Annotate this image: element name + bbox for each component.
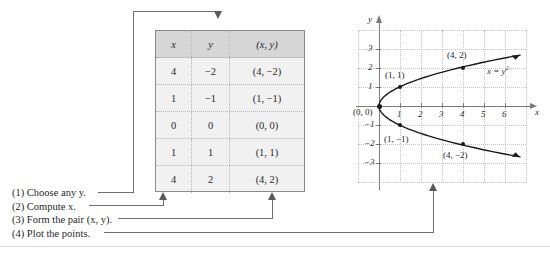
caption-step-1: (1) Choose any y. bbox=[12, 186, 172, 200]
connector-4-arrow-icon bbox=[429, 183, 437, 191]
table-row: 0 0 (0, 0) bbox=[156, 112, 304, 139]
caption-step-2: (2) Compute x. bbox=[12, 200, 172, 214]
parabola-curve bbox=[350, 8, 545, 188]
connector-1-seg-v bbox=[133, 11, 134, 193]
cell-y: −2 bbox=[192, 58, 230, 84]
caption-step-3: (3) Form the pair (x, y). bbox=[12, 213, 172, 227]
curve-equation-exponent: 2 bbox=[506, 64, 509, 71]
connector-3-seg-h bbox=[118, 218, 272, 219]
curve-equation-label: x = y2 bbox=[487, 64, 509, 76]
connector-2-seg-h bbox=[89, 205, 163, 206]
cell-y: 0 bbox=[192, 112, 230, 138]
column-header-x: x bbox=[156, 31, 192, 57]
caption-step-4: (4) Plot the points. bbox=[12, 227, 172, 241]
plot-point-0-0 bbox=[377, 104, 382, 109]
table-row: 1 1 (1, 1) bbox=[156, 139, 304, 166]
cell-pair: (4, −2) bbox=[230, 58, 304, 84]
cell-x: 1 bbox=[156, 139, 192, 165]
connector-3-seg-v bbox=[272, 199, 273, 219]
cell-pair: (1, −1) bbox=[230, 85, 304, 111]
point-label-1-1: (1, 1) bbox=[385, 70, 405, 80]
connector-1-seg-h-top bbox=[133, 11, 218, 12]
table-row: 4 2 (4, 2) bbox=[156, 166, 304, 193]
connector-1-arrow-icon bbox=[214, 11, 222, 19]
figure-root: x y (x, y) 4 −2 (4, −2) 1 −1 (1, −1) 0 0… bbox=[0, 0, 550, 257]
cell-y: −1 bbox=[192, 85, 230, 111]
connector-1-seg-h-start bbox=[98, 192, 134, 193]
cell-x: 4 bbox=[156, 58, 192, 84]
point-label-origin: (0, 0) bbox=[353, 107, 373, 117]
table-row: 4 −2 (4, −2) bbox=[156, 58, 304, 85]
table-header-row: x y (x, y) bbox=[156, 31, 304, 58]
cell-x: 1 bbox=[156, 85, 192, 111]
plot-point-1-1 bbox=[398, 85, 402, 89]
plot-point-4-neg2 bbox=[461, 142, 465, 146]
cell-y: 2 bbox=[192, 166, 230, 193]
connector-2-seg-v bbox=[163, 199, 164, 206]
column-header-y: y bbox=[192, 31, 230, 57]
point-label-1-neg1: (1, −1) bbox=[384, 134, 409, 144]
bottom-rule bbox=[0, 246, 550, 247]
values-table: x y (x, y) 4 −2 (4, −2) 1 −1 (1, −1) 0 0… bbox=[155, 30, 305, 192]
plot-point-1-neg1 bbox=[398, 123, 402, 127]
cell-pair: (0, 0) bbox=[230, 112, 304, 138]
column-header-pair: (x, y) bbox=[230, 31, 304, 57]
connector-3-arrow-icon bbox=[268, 192, 276, 200]
table-row: 1 −1 (1, −1) bbox=[156, 85, 304, 112]
plot-point-4-2 bbox=[461, 66, 465, 70]
cell-y: 1 bbox=[192, 139, 230, 165]
cell-pair: (4, 2) bbox=[230, 166, 304, 193]
cell-x: 0 bbox=[156, 112, 192, 138]
cell-pair: (1, 1) bbox=[230, 139, 304, 165]
connector-2-arrow-icon bbox=[159, 192, 167, 200]
point-label-4-2: (4, 2) bbox=[447, 50, 467, 60]
curve-equation-text: x = y bbox=[487, 66, 506, 76]
coordinate-plane: y x 1 2 3 4 5 6 1 2 3 −1 −2 −3 bbox=[350, 8, 545, 188]
connector-4-seg-h bbox=[104, 232, 434, 233]
point-label-4-neg2: (4, −2) bbox=[443, 150, 468, 160]
connector-4-seg-v bbox=[433, 190, 434, 233]
